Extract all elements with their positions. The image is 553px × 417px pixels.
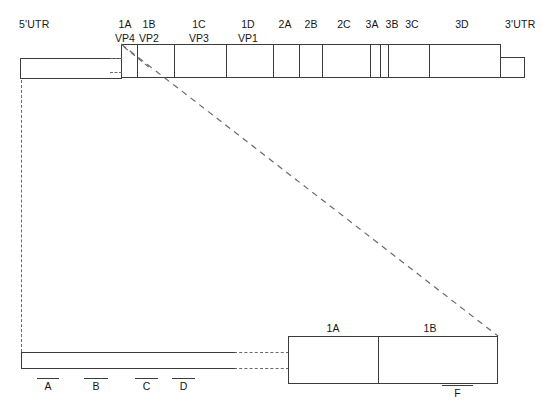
segment-label-1D: 1D: [241, 18, 254, 30]
probe-marker-B: B: [84, 378, 108, 392]
probe-marker-C: C: [135, 378, 158, 392]
divider-1C-1D: [226, 44, 227, 78]
probe-label-A: A: [37, 380, 59, 392]
lower-bar-left-cap: [21, 352, 22, 369]
projection-connector-top: [234, 352, 289, 353]
expanded-region-box: [288, 336, 498, 384]
probe-marker-F: F: [442, 385, 473, 399]
segment-label-3A: 3A: [366, 18, 379, 30]
divider-1D-2A: [273, 44, 274, 78]
divider-3B-3C: [388, 44, 389, 78]
divider-2B-2C: [322, 44, 323, 78]
probe-bar-D: [172, 378, 195, 379]
probe-label-B: B: [84, 380, 108, 392]
expanded-label-1B: 1B: [424, 322, 437, 334]
segment-label-1A: 1A: [119, 18, 132, 30]
projection-diagonal-main: [121, 44, 498, 336]
probe-bar-A: [37, 378, 59, 379]
segment-label-3B: 3B: [386, 18, 399, 30]
divider-3A-3B: [380, 44, 381, 78]
junction-tick-top: [110, 58, 122, 59]
projection-connector-bottom: [234, 368, 289, 369]
utr5-label: 5'UTR: [19, 18, 49, 30]
divider-2C-3A: [370, 44, 371, 78]
segment-label-2B: 2B: [305, 18, 318, 30]
projection-vertical-left: [21, 80, 22, 352]
utr5-bar: [20, 58, 122, 79]
segment-label-2A: 2A: [279, 18, 292, 30]
segment-label-1C: 1C: [192, 18, 205, 30]
protein-label-VP3: VP3: [189, 32, 209, 44]
probe-bar-B: [84, 378, 108, 379]
genome-diagram-figure: 5'UTR 3'UTR 1A 1B 1C 1D 2A 2B 2C 3A 3B 3…: [0, 0, 553, 417]
segment-label-1B: 1B: [143, 18, 156, 30]
segment-label-2C: 2C: [337, 18, 350, 30]
probe-label-C: C: [135, 380, 158, 392]
lower-bar-top-edge: [21, 352, 235, 353]
junction-tick-bottom: [110, 72, 122, 73]
protein-label-VP4: VP4: [115, 32, 135, 44]
probe-bar-F: [442, 385, 473, 386]
expanded-divider-1A-1B: [378, 336, 379, 384]
divider-1B-1C: [174, 44, 175, 78]
protein-label-VP1: VP1: [238, 32, 258, 44]
utr3-label: 3'UTR: [505, 18, 535, 30]
expanded-label-1A: 1A: [327, 322, 340, 334]
divider-2A-2B: [299, 44, 300, 78]
protein-label-VP2: VP2: [139, 32, 159, 44]
probe-bar-C: [135, 378, 158, 379]
segment-label-3D: 3D: [455, 18, 468, 30]
divider-1A-1B: [137, 44, 138, 78]
probe-marker-D: D: [172, 378, 195, 392]
lower-bar-bottom-edge: [21, 368, 235, 369]
utr3-bar: [500, 57, 525, 78]
segment-label-3C: 3C: [405, 18, 418, 30]
probe-marker-A: A: [37, 378, 59, 392]
polyprotein-orf-box: [121, 44, 501, 78]
probe-label-D: D: [172, 380, 195, 392]
probe-label-F: F: [442, 387, 473, 399]
divider-3C-3D: [429, 44, 430, 78]
